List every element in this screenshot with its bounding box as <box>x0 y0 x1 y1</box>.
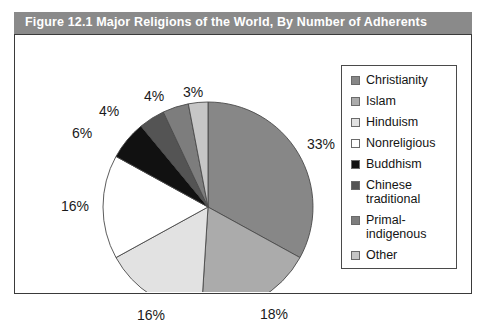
legend-item-hinduism[interactable]: Hinduism <box>342 115 456 129</box>
legend-swatch-icon <box>351 251 360 260</box>
legend-item-islam[interactable]: Islam <box>342 94 456 108</box>
pie-slice-percent-label: 6% <box>72 125 92 141</box>
legend-item-chinese-traditional[interactable]: Chinese traditional <box>342 178 456 206</box>
legend-item-christianity[interactable]: Christianity <box>342 73 456 87</box>
pie-slice-percent-label: 3% <box>183 84 203 100</box>
legend-swatch-icon <box>351 216 360 225</box>
legend-swatch-icon <box>351 139 360 148</box>
legend-item-label: Christianity <box>366 73 428 87</box>
legend-item-label: Other <box>366 248 397 262</box>
chart-frame: 33%18%16%16%6%4%4%3% Christianity Islam … <box>14 34 472 294</box>
pie-slice-percent-label: 18% <box>260 306 288 322</box>
legend-swatch-icon <box>351 160 360 169</box>
chart-legend: Christianity Islam Hinduism Nonreligious… <box>341 65 457 269</box>
pie-slice-percent-label: 16% <box>137 307 165 323</box>
legend-item-label: Primal-indigenous <box>366 213 450 241</box>
legend-item-primal-indigenous[interactable]: Primal-indigenous <box>342 213 456 241</box>
legend-item-buddhism[interactable]: Buddhism <box>342 157 456 171</box>
legend-swatch-icon <box>351 181 360 190</box>
legend-item-label: Hinduism <box>366 115 418 129</box>
pie-chart-svg <box>15 35 345 292</box>
legend-swatch-icon <box>351 97 360 106</box>
legend-item-label: Chinese traditional <box>366 178 450 206</box>
pie-slice-percent-label: 33% <box>307 136 335 152</box>
figure-title-banner: Figure 12.1 Major Religions of the World… <box>14 12 472 34</box>
pie-slice-percent-label: 16% <box>61 198 89 214</box>
pie-slices-group <box>103 102 313 292</box>
legend-swatch-icon <box>351 118 360 127</box>
legend-item-nonreligious[interactable]: Nonreligious <box>342 136 456 150</box>
pie-chart: 33%18%16%16%6%4%4%3% <box>15 35 345 292</box>
pie-slice-percent-label: 4% <box>99 103 119 119</box>
legend-item-label: Islam <box>366 94 396 108</box>
legend-item-other[interactable]: Other <box>342 248 456 262</box>
legend-item-label: Nonreligious <box>366 136 435 150</box>
legend-item-label: Buddhism <box>366 157 422 171</box>
figure-container: Figure 12.1 Major Religions of the World… <box>14 12 472 294</box>
pie-slice-percent-label: 4% <box>144 88 164 104</box>
legend-swatch-icon <box>351 76 360 85</box>
page-title: Figure 12.1 Major Religions of the World… <box>25 15 427 29</box>
